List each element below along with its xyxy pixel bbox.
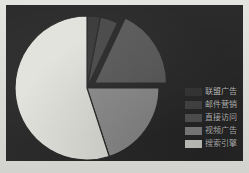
screenshot-root: 联盟广告 邮件营销 直接访问 视频广告 搜索引擎 [0,0,249,173]
legend-swatch-icon [185,101,202,109]
legend-item-label: 直接访问 [205,113,237,122]
pie-plot-area [6,5,186,161]
legend-item-lianmeng-guanggao[interactable]: 联盟广告 [185,85,243,98]
legend-swatch-icon [185,140,202,148]
pie-chart-canvas: 联盟广告 邮件营销 直接访问 视频广告 搜索引擎 [6,5,243,161]
pie-slice-group [15,16,167,160]
legend-item-label: 邮件营销 [205,100,237,109]
chart-legend: 联盟广告 邮件营销 直接访问 视频广告 搜索引擎 [185,85,243,150]
legend-swatch-icon [185,88,202,96]
legend-swatch-icon [185,114,202,122]
legend-item-youjian-yingxiao[interactable]: 邮件营销 [185,98,243,111]
pie-svg [6,5,186,161]
legend-item-label: 搜索引擎 [205,139,237,148]
legend-item-shipin-guanggao[interactable]: 视频广告 [185,124,243,137]
legend-item-label: 视频广告 [205,126,237,135]
legend-swatch-icon [185,127,202,135]
legend-item-zhijie-fangwen[interactable]: 直接访问 [185,111,243,124]
legend-item-sousuo-yinqing[interactable]: 搜索引擎 [185,137,243,150]
legend-item-label: 联盟广告 [205,87,237,96]
